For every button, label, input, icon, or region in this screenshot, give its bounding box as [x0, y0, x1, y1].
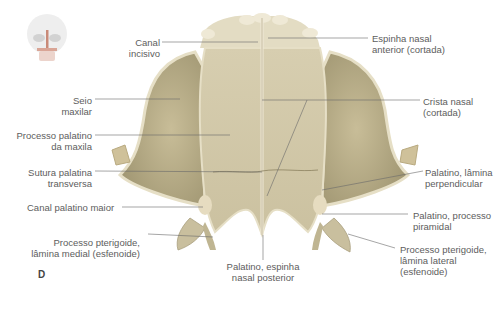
label-canal-incisivo: Canal incisivo: [112, 37, 160, 59]
maxilla-outline: [200, 13, 320, 48]
label-processo-palatino: Processo palatino da maxila: [2, 130, 92, 152]
panel-label: D: [38, 269, 45, 280]
left-pterygoid-plates: [177, 218, 205, 250]
right-pterygoid-plates: [322, 218, 350, 252]
skull-orientation-icon: [27, 14, 67, 61]
label-pterigoide-lateral: Processo pterigoide, lâmina lateral (esf…: [400, 244, 487, 277]
label-espinha-nasal-anterior: Espinha nasal anterior (cortada): [372, 33, 445, 55]
label-crista-nasal: Crista nasal (cortada): [423, 96, 473, 118]
label-canal-palatino-maior: Canal palatino maior: [27, 202, 114, 213]
left-maxillary-sinus: [120, 52, 205, 206]
right-maxillary-sinus: [322, 52, 408, 206]
label-lamina-perpendicular: Palatino, lâmina perpendicular: [425, 167, 493, 189]
label-seio-maxilar: Seio maxilar: [40, 95, 92, 117]
label-pterigoide-medial: Processo pterigoide, lâmina medial (esfe…: [10, 237, 140, 259]
label-sutura-palatina: Sutura palatina transversa: [2, 167, 92, 189]
label-processo-piramidal: Palatino, processo piramidal: [413, 210, 491, 232]
label-espinha-nasal-posterior: Palatino, espinha nasal posterior: [213, 261, 313, 283]
